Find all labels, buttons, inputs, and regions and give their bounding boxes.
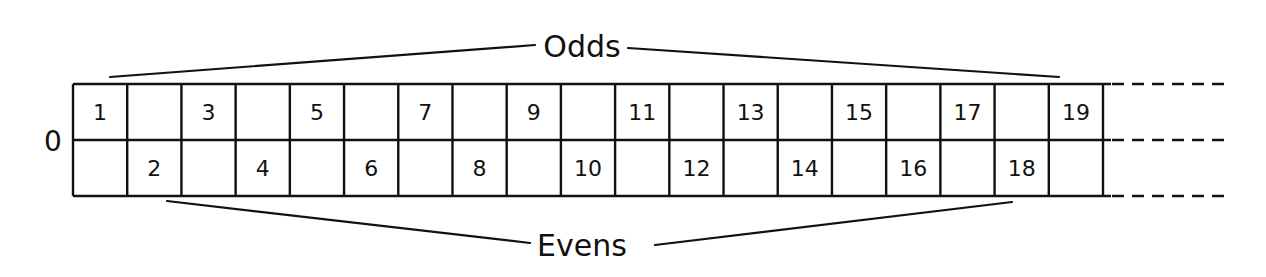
even-cell: 4 [256,156,270,181]
odd-cell: 17 [953,100,981,125]
number-strip-diagram: Odds Evens 0 135791113151719 24681012141… [0,0,1266,277]
odd-cell: 9 [527,100,541,125]
even-cell: 10 [574,156,602,181]
odd-cell: 13 [737,100,765,125]
even-cell: 6 [364,156,378,181]
even-cell: 18 [1008,156,1036,181]
zero-label: 0 [44,125,62,158]
even-cell: 2 [147,156,161,181]
odd-cell: 15 [845,100,873,125]
odd-cell: 7 [418,100,432,125]
evens-label: Evens [537,228,627,263]
even-cell: 8 [473,156,487,181]
even-cell: 16 [899,156,927,181]
odd-cell: 1 [93,100,107,125]
odd-cell: 11 [628,100,656,125]
odd-cell: 19 [1062,100,1090,125]
even-cell: 14 [791,156,819,181]
continuation-dashes [1112,84,1230,196]
even-row: 24681012141618 [147,156,1035,181]
odd-cell: 3 [202,100,216,125]
even-cell: 12 [682,156,710,181]
odd-cell: 5 [310,100,324,125]
odds-label: Odds [543,29,620,64]
